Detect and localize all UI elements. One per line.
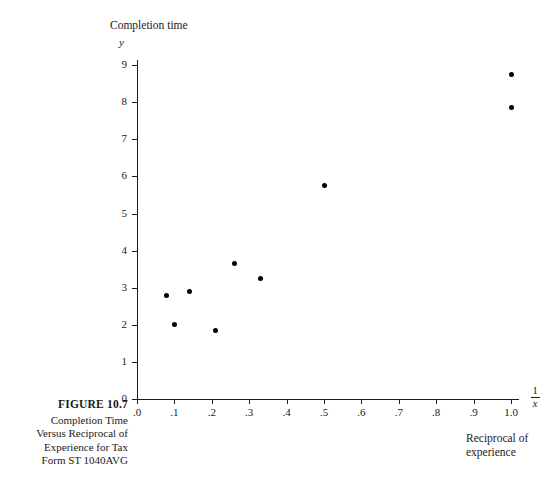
x-axis-tick-label: .4 [271, 406, 303, 418]
x-axis-tick [287, 399, 288, 404]
x-axis-tick-label: .9 [458, 406, 490, 418]
y-axis-tick-label: 8 [107, 95, 127, 107]
y-axis-tick-label: 4 [107, 244, 127, 256]
scatter-plot-area: .0.1.2.3.4.5.6.7.8.91.00123456789 [0, 0, 559, 484]
data-point [509, 72, 514, 77]
y-axis-tick-label: 5 [107, 207, 127, 219]
x-axis-tick-label: .3 [233, 406, 265, 418]
x-axis-tick-label: .0 [121, 406, 153, 418]
y-axis-line [137, 60, 138, 400]
x-axis-tick [474, 399, 475, 404]
y-axis-tick [132, 251, 138, 252]
y-axis-tick [132, 176, 138, 177]
x-axis-tick-label: .7 [383, 406, 415, 418]
y-axis-tick [132, 139, 138, 140]
x-axis-tick-label: .2 [196, 406, 228, 418]
y-axis-tick-label: 3 [107, 281, 127, 293]
data-point [187, 289, 192, 294]
y-axis-tick-label: 2 [107, 318, 127, 330]
y-axis-tick [132, 214, 138, 215]
x-axis-tick-label: 1.0 [495, 406, 527, 418]
y-axis-tick [132, 288, 138, 289]
y-axis-tick-label: 0 [107, 392, 127, 404]
y-axis-tick-label: 9 [107, 58, 127, 70]
data-point [213, 328, 218, 333]
x-axis-tick-label: .8 [420, 406, 452, 418]
x-axis-tick [249, 399, 250, 404]
x-axis-tick [511, 399, 512, 404]
y-axis-tick [132, 102, 138, 103]
x-axis-line [137, 399, 519, 400]
figure-container: FIGURE 10.7 Completion Time Versus Recip… [0, 0, 559, 484]
y-axis-tick [132, 399, 138, 400]
data-point [509, 105, 514, 110]
data-point [164, 293, 169, 298]
x-axis-tick [436, 399, 437, 404]
x-axis-tick [174, 399, 175, 404]
y-axis-tick [132, 65, 138, 66]
x-axis-tick-label: .6 [345, 406, 377, 418]
data-point [232, 261, 237, 266]
x-axis-tick [324, 399, 325, 404]
y-axis-tick-label: 7 [107, 132, 127, 144]
data-point [322, 183, 327, 188]
x-axis-tick-label: .5 [308, 406, 340, 418]
y-axis-tick [132, 362, 138, 363]
x-axis-tick-label: .1 [158, 406, 190, 418]
x-axis-tick [212, 399, 213, 404]
data-point [258, 276, 263, 281]
y-axis-tick-label: 6 [107, 169, 127, 181]
x-axis-tick [361, 399, 362, 404]
y-axis-tick-label: 1 [107, 355, 127, 367]
x-axis-tick [399, 399, 400, 404]
data-point [172, 322, 177, 327]
y-axis-tick [132, 325, 138, 326]
